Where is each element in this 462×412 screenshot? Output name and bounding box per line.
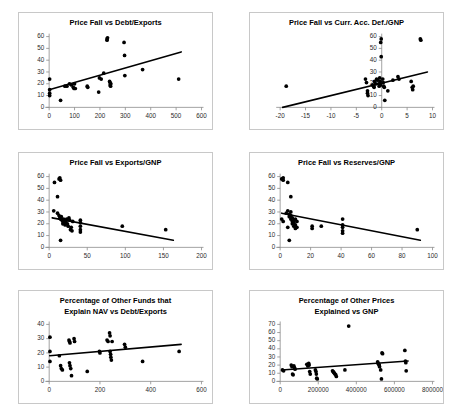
chart-svg-price-fall-vs-debt-exports: Price Fall vs Debt/Exports01002003004005… [19,13,212,129]
data-point [419,38,423,42]
data-point [177,77,181,81]
y-tick-label: 0 [373,103,377,110]
x-tick-label: 400000 [346,386,367,393]
x-tick-label: 600 [196,112,207,119]
data-point [381,81,385,85]
y-tick-label: 40 [268,344,275,351]
x-tick-label: 0 [380,112,384,119]
x-tick-label: 400 [145,386,156,393]
data-point [48,88,52,92]
data-point [98,351,102,355]
data-point [409,80,413,84]
y-tick-label: 60 [268,328,275,335]
y-tick-label: 60 [37,32,44,39]
y-tick-label: 20 [37,349,44,356]
y-tick-label: 50 [37,184,44,191]
data-point-group [280,176,419,242]
data-point [120,224,124,228]
y-tick-label: 10 [37,363,44,370]
data-point [123,54,127,58]
x-tick-label: -5 [354,112,360,119]
data-point [403,349,407,353]
y-tick-label: 20 [268,361,275,368]
data-point [382,85,386,89]
data-point [314,372,318,376]
chart-svg-price-fall-vs-curr-acc-def-gnp: Price Fall vs Curr. Acc. Def./GNP-20-15-… [250,13,443,129]
data-point [73,82,77,86]
y-tick-label: 20 [37,79,44,86]
data-point [141,68,145,72]
y-tick-label: 10 [268,369,275,376]
data-point [391,78,395,82]
x-tick-label: 200 [196,252,207,259]
data-point [106,340,110,344]
x-tick-label: 200 [95,386,106,393]
x-tick-label: 0 [47,112,51,119]
data-point-group [48,36,181,102]
trend-line [283,72,428,107]
y-tick-label: 40 [37,56,44,63]
data-point [397,77,401,81]
x-tick-label: 200 [95,112,106,119]
data-point [57,354,61,358]
chart-title: Price Fall vs Curr. Acc. Def./GNP [289,18,404,27]
data-point [69,225,73,229]
y-tick-label: 10 [268,231,275,238]
data-point [295,225,299,229]
data-point [293,367,297,371]
data-point [379,368,383,372]
chart-panel-price-fall-vs-reserves-gnp: Price Fall vs Reserves/GNP02040608010001… [249,152,444,270]
data-point [287,238,291,242]
x-tick-label: 60 [368,252,375,259]
data-point [295,220,299,224]
data-point [79,230,83,234]
y-tick-label: 20 [37,219,44,226]
x-tick-label: 5 [405,112,409,119]
data-point [383,98,387,102]
x-tick-label: 40 [338,252,345,259]
x-tick-label: 50 [84,252,91,259]
data-point [69,367,73,371]
x-tick-label: 200000 [308,386,329,393]
data-point [48,335,52,339]
data-point [404,361,408,365]
y-tick-label: 50 [268,184,275,191]
x-tick-label: 100 [120,252,131,259]
chart-svg-pct-other-funds-explain-nav: Percentage of Other Funds thatExplain NA… [19,291,212,403]
data-point [379,41,383,45]
y-tick-label: 40 [370,56,377,63]
data-point [281,176,285,180]
data-point [366,94,370,98]
x-tick-label: 0 [47,252,51,259]
data-point [364,77,368,81]
data-point [79,221,83,225]
y-tick-label: 40 [37,196,44,203]
chart-svg-price-fall-vs-reserves-gnp: Price Fall vs Reserves/GNP02040608010001… [250,153,443,269]
data-point [284,84,288,88]
y-tick-label: 30 [370,68,377,75]
y-tick-label: 30 [268,208,275,215]
y-tick-label: 0 [41,243,45,250]
y-tick-label: 30 [37,334,44,341]
y-tick-label: 30 [268,353,275,360]
y-tick-label: 20 [268,219,275,226]
chart-title: Price Fall vs Reserves/GNP [298,158,395,167]
data-point [48,77,52,81]
y-tick-label: 40 [37,320,44,327]
data-point [48,94,52,98]
chart-title: Price Fall vs Exports/GNP [70,158,162,167]
data-point [108,334,112,338]
chart-title: Percentage of Other Prices [299,296,395,305]
data-point [415,228,419,232]
data-point [59,98,63,102]
data-point [53,181,57,185]
y-tick-label: 50 [268,336,275,343]
x-tick-label: 20 [307,252,314,259]
data-point [56,195,60,199]
data-point [341,217,345,221]
data-point [164,228,168,232]
data-point [307,363,311,367]
x-tick-label: 800000 [422,386,443,393]
data-point [73,87,77,91]
y-tick-label: 10 [370,91,377,98]
